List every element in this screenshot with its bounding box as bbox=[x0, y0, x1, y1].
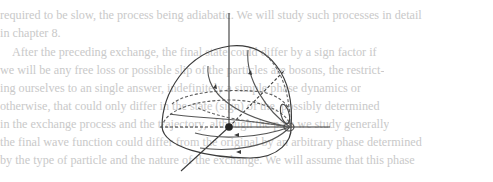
trajectory-3 bbox=[248, 50, 290, 127]
trajectory-6 bbox=[195, 127, 290, 137]
arrow-icon bbox=[234, 133, 239, 137]
origin-dot bbox=[225, 123, 233, 131]
trajectory-2 bbox=[208, 66, 290, 127]
hemisphere-outline bbox=[162, 46, 291, 127]
base-ellipse-front bbox=[162, 127, 291, 158]
trajectory-7 bbox=[200, 127, 290, 149]
hemisphere-diagram bbox=[0, 0, 493, 182]
arrow-icon bbox=[236, 150, 241, 154]
loop-path bbox=[279, 103, 292, 124]
